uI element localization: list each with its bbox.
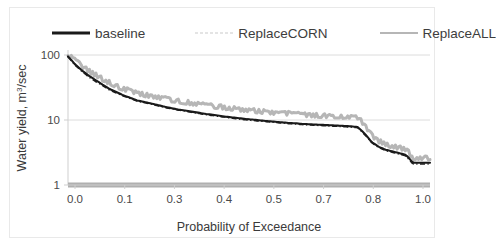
x-tick-label-0.7: 0.7	[316, 193, 332, 205]
y-tick-label-100: 100	[41, 49, 60, 61]
y-axis-title-main: Water yield, m	[15, 92, 29, 171]
svg-text:Water yield, m3/sec: Water yield, m3/sec	[15, 65, 29, 172]
x-axis-title: Probability of Exceedance	[177, 220, 322, 234]
y-tick-label-10: 10	[47, 114, 60, 126]
y-tick-label-1: 1	[54, 179, 60, 191]
y-tick-marks	[64, 55, 68, 185]
x-tick-labels: 0.00.10.30.40.50.70.81.0	[67, 193, 431, 205]
x-tick-label-0.5: 0.5	[266, 193, 282, 205]
y-axis-title-tail: /sec	[15, 65, 29, 88]
x-tick-label-0.1: 0.1	[117, 193, 133, 205]
x-tick-label-0.3: 0.3	[166, 193, 182, 205]
x-tick-label-0.4: 0.4	[216, 193, 233, 205]
x-tick-label-1.0: 1.0	[415, 193, 431, 205]
x-tick-label-0.0: 0.0	[67, 193, 83, 205]
x-tick-label-0.8: 0.8	[365, 193, 381, 205]
y-axis-title: Water yield, m3/sec	[15, 65, 29, 172]
